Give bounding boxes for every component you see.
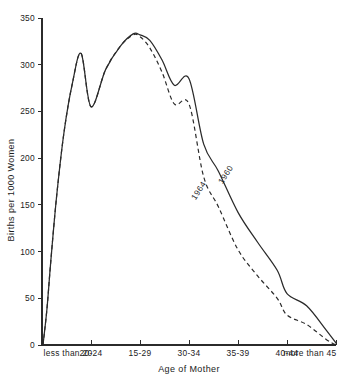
y-axis-ticks: 050100150200250300350	[20, 13, 42, 350]
chart-figure: 050100150200250300350 less than 2020-241…	[0, 0, 353, 378]
y-tick-label: 150	[20, 200, 35, 210]
y-axis: 050100150200250300350	[20, 13, 42, 350]
series-label-1960: 1960	[217, 164, 236, 186]
y-tick-label: 0	[30, 340, 35, 350]
series-label-1964: 1964	[190, 180, 209, 202]
x-axis-ticks: less than 2020-2415-2930-3435-3940-44mor…	[42, 340, 337, 358]
y-axis-title: Births per 1000 Women	[6, 139, 16, 242]
y-tick-label: 100	[20, 247, 35, 257]
births-per-1000-women-line-chart: 050100150200250300350 less than 2020-241…	[0, 0, 353, 378]
y-tick-label: 300	[20, 60, 35, 70]
x-axis-title: Age of Mother	[158, 364, 220, 374]
x-tick-label: more than 45	[284, 348, 337, 358]
data-series-group	[43, 33, 336, 345]
x-tick-label: 35-39	[227, 348, 250, 358]
series-line-1960	[43, 33, 336, 345]
x-tick-label: 30-34	[178, 348, 201, 358]
series-inline-labels: 19601964	[190, 164, 236, 202]
y-tick-label: 200	[20, 153, 35, 163]
x-axis: less than 2020-2415-2930-3435-3940-44mor…	[42, 340, 337, 358]
x-tick-label: 15-29	[129, 348, 152, 358]
x-tick-label: 20-24	[80, 348, 103, 358]
y-tick-label: 350	[20, 13, 35, 23]
y-tick-label: 50	[25, 293, 35, 303]
y-tick-label: 250	[20, 106, 35, 116]
